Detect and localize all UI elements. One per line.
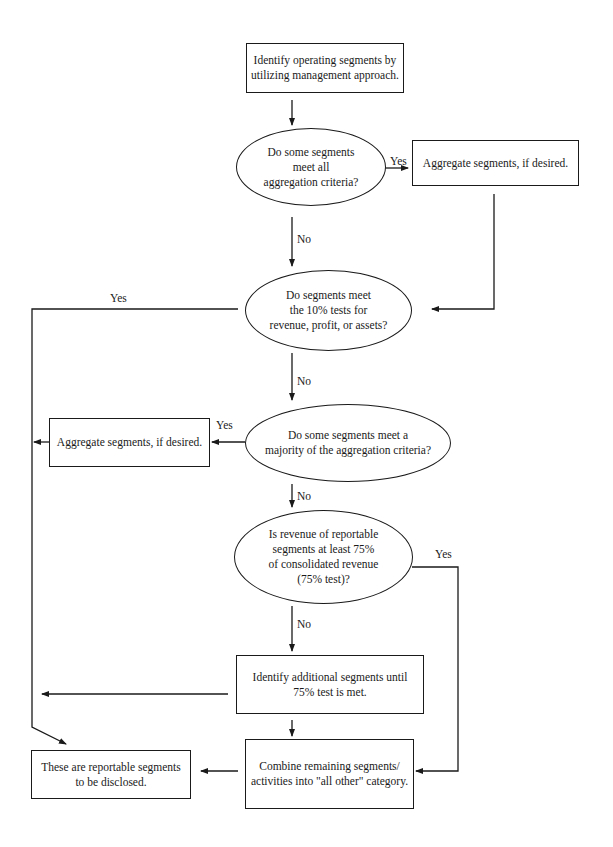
reportable-segments-text: These are reportable segments to be disc… <box>41 760 181 790</box>
decision-majority: Do some segments meet a majority of the … <box>245 404 451 482</box>
aggregate-box-2: Aggregate segments, if desired. <box>49 418 210 467</box>
edge-label-ten-percent-yes: Yes <box>110 291 127 305</box>
edge-label-majority-yes: Yes <box>216 418 233 432</box>
decision-ten-percent: Do segments meet the 10% tests for reven… <box>245 270 412 351</box>
decision-75-test: Is revenue of reportable segments at lea… <box>234 510 413 604</box>
reportable-segments-box: These are reportable segments to be disc… <box>31 750 191 799</box>
aggregate-box-1-text: Aggregate segments, if desired. <box>423 156 568 171</box>
edge-label-ten-percent-no: No <box>297 374 311 388</box>
identify-additional-box: Identify additional segments until 75% t… <box>236 655 424 714</box>
decision-all-criteria: Do some segments meet all aggregation cr… <box>236 128 386 206</box>
edge-label-all-criteria-no: No <box>297 232 311 246</box>
aggregate-box-2-text: Aggregate segments, if desired. <box>57 435 202 450</box>
edge-label-all-criteria-yes: Yes <box>390 154 407 168</box>
edge-label-75-test-yes: Yes <box>435 547 452 561</box>
start-box: Identify operating segments by utilizing… <box>246 43 404 93</box>
decision-75-test-text: Is revenue of reportable segments at lea… <box>269 527 379 587</box>
decision-ten-percent-text: Do segments meet the 10% tests for reven… <box>270 288 388 333</box>
edge-label-75-test-no: No <box>297 617 311 631</box>
edge-label-majority-no: No <box>297 489 311 503</box>
start-text: Identify operating segments by utilizing… <box>251 53 399 83</box>
decision-all-criteria-text: Do some segments meet all aggregation cr… <box>264 145 359 190</box>
aggregate-box-1: Aggregate segments, if desired. <box>412 140 579 186</box>
identify-additional-text: Identify additional segments until 75% t… <box>253 670 408 700</box>
combine-remaining-box: Combine remaining segments/ activities i… <box>245 739 414 809</box>
combine-remaining-text: Combine remaining segments/ activities i… <box>251 759 408 789</box>
decision-majority-text: Do some segments meet a majority of the … <box>265 428 431 458</box>
